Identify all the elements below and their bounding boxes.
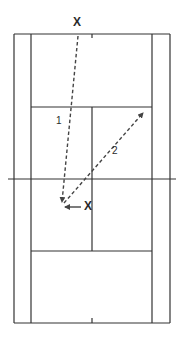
shot-2-arrow <box>64 113 143 203</box>
shot-2-label: 2 <box>112 146 118 156</box>
player-feeder-marker: X <box>73 16 81 28</box>
tennis-court-diagram <box>0 0 185 341</box>
shot-1-arrow <box>62 36 78 202</box>
player-marker: X <box>84 200 92 212</box>
court-lines <box>8 34 176 323</box>
shot-1-label: 1 <box>56 116 62 126</box>
shot-paths <box>62 36 143 207</box>
